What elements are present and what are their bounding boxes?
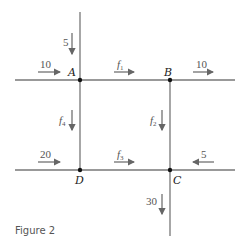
flow-value-a-top: 5 xyxy=(63,36,69,48)
flow-label-f4: f4 xyxy=(59,114,66,128)
node-a-label: A xyxy=(67,66,76,79)
network-flow-diagram: A B C D 5 10 10 20 5 30 f1 f2 f3 f4 xyxy=(0,0,246,248)
flow-value-d-left: 20 xyxy=(40,148,52,160)
road-lines xyxy=(15,12,235,236)
flow-value-b-right: 10 xyxy=(196,58,208,70)
node-d-dot xyxy=(78,168,82,172)
node-d-label: D xyxy=(74,174,84,187)
node-b-label: B xyxy=(163,66,172,79)
figure-caption: Figure 2 xyxy=(15,225,55,236)
flow-value-c-bottom: 30 xyxy=(146,195,158,207)
node-c-label: C xyxy=(173,174,182,187)
flow-value-a-left: 10 xyxy=(40,58,52,70)
node-a-dot xyxy=(78,78,82,82)
flow-value-c-right: 5 xyxy=(201,148,207,160)
flow-label-f2: f2 xyxy=(150,114,157,128)
node-c-dot xyxy=(168,168,172,172)
flow-label-f3: f3 xyxy=(117,148,124,162)
flow-label-f1: f1 xyxy=(117,58,124,72)
